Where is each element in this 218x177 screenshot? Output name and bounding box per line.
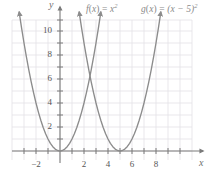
grid-lines-horizontal (12, 20, 192, 151)
coordinate-plane (0, 0, 218, 177)
graph-figure: f(x) = x2 g(x) = (x − 5)2 y x −2 2 4 6 8… (0, 0, 218, 177)
